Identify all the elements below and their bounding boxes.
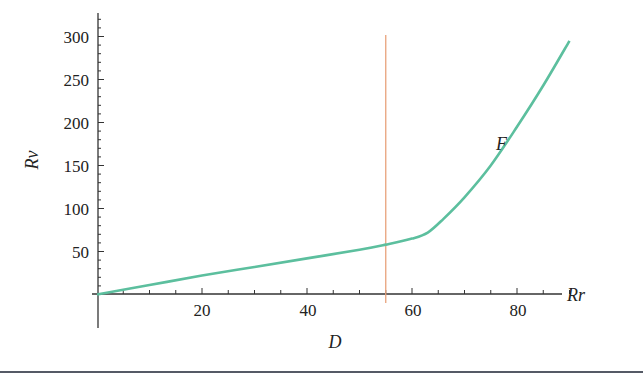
y-tick-label: 50 xyxy=(72,243,89,262)
curve-label: F xyxy=(495,134,508,154)
x-axis-label: Rr xyxy=(566,285,586,305)
bottom-rule xyxy=(0,371,643,373)
y-tick-label: 200 xyxy=(64,114,90,133)
curve-f xyxy=(97,41,570,295)
y-axis-label: Rv xyxy=(22,150,42,170)
y-ticks xyxy=(98,19,104,286)
y-tick-label: 100 xyxy=(64,200,90,219)
chart: 20 40 60 80 50 100 150 200 250 300 Rr Rv… xyxy=(0,0,643,377)
x-ticks xyxy=(123,288,569,294)
x-tick-label: 40 xyxy=(300,301,317,320)
below-axis-label: D xyxy=(328,332,342,352)
x-tick-label: 20 xyxy=(194,301,211,320)
y-tick-label: 250 xyxy=(64,71,90,90)
x-tick-label: 60 xyxy=(405,301,422,320)
y-tick-label: 150 xyxy=(64,157,90,176)
x-tick-label: 80 xyxy=(510,301,527,320)
y-tick-label: 300 xyxy=(64,28,90,47)
